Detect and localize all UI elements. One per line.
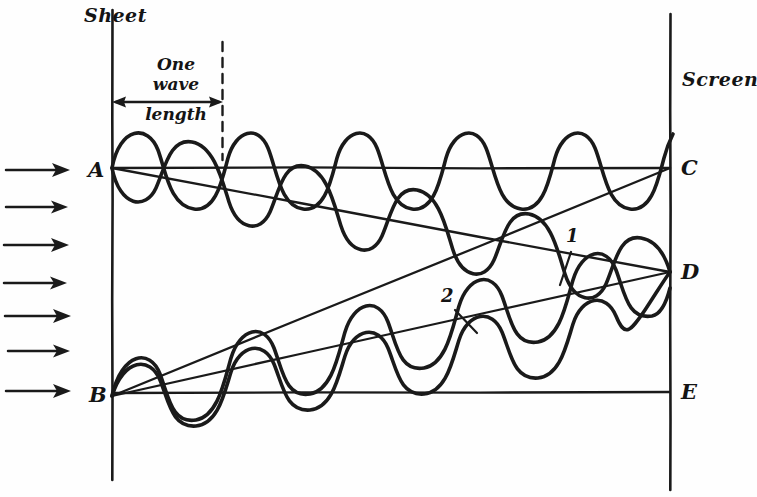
ray-2-leader [455,310,477,333]
point-label-d: D [681,261,700,282]
wave-b-to-c [112,254,670,421]
figure-canvas [0,0,757,497]
ray-b-to-e [112,392,670,393]
sheet-label: Sheet [84,6,147,25]
incoming-arrow [6,384,71,398]
point-label-c: C [681,157,698,178]
point-label-e: E [681,381,698,402]
wave-b-to-d [112,272,670,426]
ray-label-1: 1 [566,227,579,245]
incoming-arrow [4,238,69,252]
point-label-a: A [88,159,105,180]
wave-interference-diagram: Sheet Screen One wave length A B C D E 1… [0,0,757,497]
point-label-b: B [89,384,107,405]
wavelength-label-line3: length [117,106,235,123]
incoming-arrow [8,345,70,358]
wavelength-label-line2: wave [117,76,235,93]
incoming-arrow [6,201,68,214]
ray-b-to-c [112,168,670,396]
screen-label: Screen [682,70,757,89]
incoming-arrow [4,277,67,290]
incoming-arrow [6,163,70,177]
wavelength-label-line1: One [117,56,235,73]
ray-a-to-c [112,167,670,168]
incoming-wave-arrows [4,163,71,398]
ray-label-2: 2 [441,287,454,305]
incoming-arrow [5,309,71,323]
